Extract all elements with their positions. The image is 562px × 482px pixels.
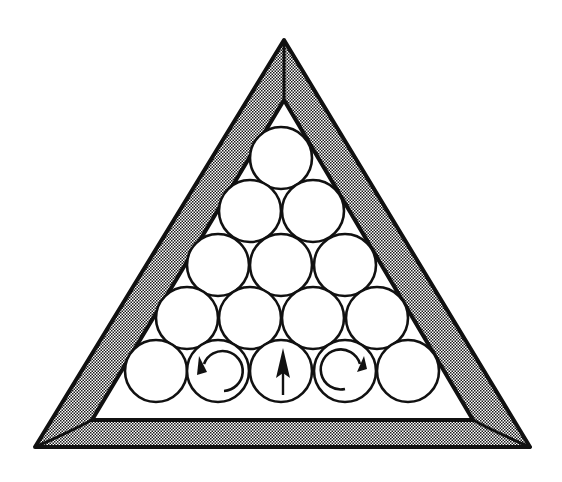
billiard-ball-row5-2 <box>187 340 249 402</box>
billiard-ball-row3-2 <box>250 234 312 296</box>
billiard-ball-row2-1 <box>219 180 281 242</box>
billiard-ball-row5-5 <box>377 340 439 402</box>
billiard-rack-diagram <box>0 0 562 482</box>
billiard-ball-row4-1 <box>156 287 218 349</box>
billiard-ball-row2-2 <box>282 180 344 242</box>
billiard-ball-row3-3 <box>314 234 376 296</box>
rack-illustration <box>0 0 562 482</box>
billiard-ball-row4-4 <box>346 287 408 349</box>
billiard-ball-row3-1 <box>187 234 249 296</box>
billiard-ball-row4-3 <box>282 287 344 349</box>
billiard-ball-row1-1 <box>250 127 312 189</box>
billiard-ball-row4-2 <box>219 287 281 349</box>
billiard-ball-row5-1 <box>125 340 187 402</box>
